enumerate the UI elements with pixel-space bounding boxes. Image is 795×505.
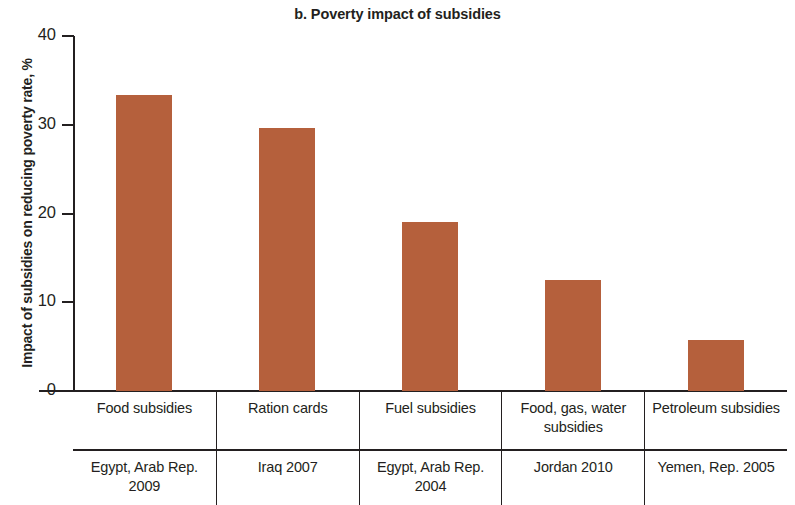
source-label: Egypt, Arab Rep. 2004 <box>360 458 502 496</box>
bar <box>259 128 315 391</box>
poverty-impact-of-subsidies-chart: b. Poverty impact of subsidies Impact of… <box>0 0 795 505</box>
source-label-row: Egypt, Arab Rep. 2009 <box>73 449 216 505</box>
category-label: Food subsidies <box>94 399 195 418</box>
bars-layer <box>0 0 795 391</box>
category-label: Fuel subsidies <box>382 399 479 418</box>
category-label-row: Fuel subsidies <box>360 392 502 449</box>
category-label-row: Petroleum subsidies <box>645 392 787 449</box>
category-label: Petroleum subsidies <box>649 399 783 418</box>
category-label: Food, gas, water subsidies <box>502 399 644 437</box>
category-label-row: Food, gas, water subsidies <box>502 392 644 449</box>
source-label: Egypt, Arab Rep. 2009 <box>73 458 216 496</box>
category-label-row: Food subsidies <box>73 392 216 449</box>
category-label: Ration cards <box>245 399 331 418</box>
category-label-row: Ration cards <box>217 392 359 449</box>
label-table-mid-rule <box>73 449 787 451</box>
source-label-row: Jordan 2010 <box>502 449 644 505</box>
bar <box>402 222 458 391</box>
source-label-row: Egypt, Arab Rep. 2004 <box>360 449 502 505</box>
bar <box>688 340 744 391</box>
source-label: Yemen, Rep. 2005 <box>654 458 777 477</box>
bar <box>116 95 172 391</box>
source-label: Jordan 2010 <box>531 458 616 477</box>
source-label: Iraq 2007 <box>255 458 321 477</box>
source-label-row: Yemen, Rep. 2005 <box>645 449 787 505</box>
source-label-row: Iraq 2007 <box>217 449 359 505</box>
bar <box>545 280 601 391</box>
